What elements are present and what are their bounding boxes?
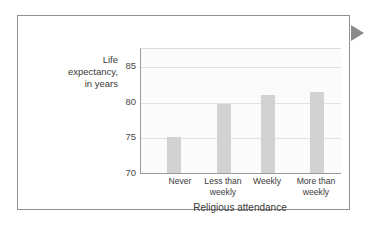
figure-root: Life expectancy, in years 85 80 75 70 (0, 0, 370, 226)
plot-inner (141, 49, 341, 174)
bar-more-than-weekly (310, 92, 324, 174)
y-tick-label-85: 85 (118, 61, 136, 71)
y-tick-label-70: 70 (118, 168, 136, 178)
x-axis-title: Religious attendance (140, 202, 340, 213)
x-tick-label-less-than-weekly-line-2: weekly (192, 187, 254, 198)
x-tick-label-more-than-weekly-line-2: weekly (285, 187, 347, 198)
figure-card: Life expectancy, in years 85 80 75 70 (17, 15, 350, 210)
bar-less-than-weekly (217, 104, 231, 174)
y-axis-tick-labels: 85 80 75 70 (118, 48, 136, 173)
bar-never (167, 137, 181, 174)
x-axis-baseline (140, 173, 341, 174)
y-axis-title-line-3: in years (36, 78, 118, 90)
y-tick-label-80: 80 (118, 97, 136, 107)
plot-area (140, 48, 341, 174)
y-axis-title: Life expectancy, in years (36, 54, 118, 90)
triangle-right-icon (351, 25, 364, 41)
x-tick-label-more-than-weekly: More than weekly (285, 176, 347, 197)
y-tick-label-75: 75 (118, 132, 136, 142)
x-axis-tick-labels: Never Less than weekly Weekly More than … (140, 176, 340, 200)
x-tick-label-more-than-weekly-line-1: More than (285, 176, 347, 187)
bar-weekly (261, 95, 275, 174)
y-axis-title-line-2: expectancy, (36, 66, 118, 78)
gridline-85 (141, 67, 341, 68)
y-axis-title-line-1: Life (36, 54, 118, 66)
